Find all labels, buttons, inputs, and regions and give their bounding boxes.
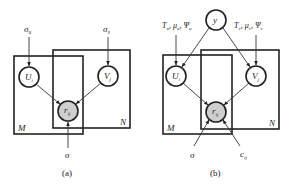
edge-u-to-r (183, 83, 208, 105)
sigma-label: σ (65, 150, 70, 160)
node-y: y (206, 10, 226, 30)
plate-m-label: M (166, 123, 175, 133)
node-u-i: Ui (19, 67, 39, 87)
edge-y-to-u (182, 28, 209, 67)
caption-a: (a) (62, 168, 72, 178)
panel-a: M N σu σv σ Ui Vj rij (a) (14, 24, 130, 178)
plate-n-label: N (119, 117, 127, 127)
prior-u-label: Tu, μu, Ψu (162, 21, 192, 31)
node-r-ij: rij (206, 102, 226, 122)
edge-v-to-r (224, 83, 249, 105)
edge-u-to-r (36, 84, 60, 104)
node-u-i: Ui (166, 66, 186, 86)
node-v-j: Vj (98, 66, 118, 86)
sigma-label: σ (190, 150, 195, 160)
plate-n-label: N (268, 118, 276, 128)
sigma-u-label: σu (24, 24, 31, 35)
node-r-ij: rij (58, 101, 78, 121)
figure: M N σu σv σ Ui Vj rij (a) M N (0, 0, 291, 188)
caption-b: (b) (210, 168, 221, 178)
sigma-v-label: σv (103, 24, 110, 35)
node-v-j: Vj (246, 66, 266, 86)
svg-text:y: y (212, 15, 217, 25)
edge-y-to-v (223, 28, 250, 67)
edge-v-to-r (76, 83, 101, 104)
prior-v-label: Tv, μv, Ψv (234, 21, 264, 31)
panel-b: M N Tu, μu, Ψu Tv, μv, Ψv σ cij y Ui Vj (162, 10, 279, 178)
plate-m-label: M (17, 123, 26, 133)
c-ij-label: cij (240, 149, 247, 160)
